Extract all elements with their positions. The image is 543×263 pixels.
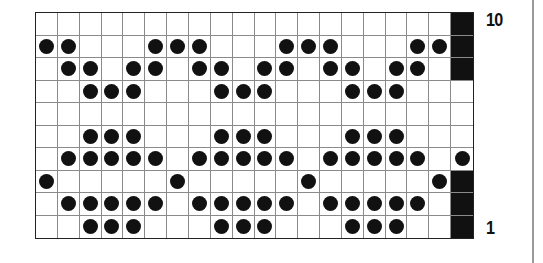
stitch-dot-icon: [389, 84, 404, 99]
stitch-dot-icon: [389, 151, 404, 166]
stitch-dot-icon: [345, 219, 360, 234]
stitch-dot-icon: [257, 129, 272, 144]
stitch-dot-icon: [279, 196, 294, 211]
stitch-dot-icon: [236, 84, 251, 99]
grid-cell: [102, 148, 124, 171]
grid-cell: [145, 103, 167, 126]
stitch-dot-icon: [389, 219, 404, 234]
grid-cell: [451, 13, 473, 36]
stitch-dot-icon: [367, 196, 382, 211]
grid-cell: [298, 58, 320, 81]
grid-cell: [255, 81, 277, 104]
grid-cell: [167, 103, 189, 126]
grid-cell: [298, 216, 320, 239]
stitch-dot-icon: [345, 61, 360, 76]
grid-cell: [167, 13, 189, 36]
grid-cell: [167, 81, 189, 104]
stitch-dot-icon: [345, 196, 360, 211]
grid-cell: [123, 126, 145, 149]
stitch-dot-icon: [455, 151, 470, 166]
grid-cell: [407, 58, 429, 81]
grid-cell: [298, 193, 320, 216]
grid-cell: [320, 148, 342, 171]
stitch-dot-icon: [345, 151, 360, 166]
grid-cell: [123, 36, 145, 59]
stitch-dot-icon: [104, 219, 119, 234]
grid-cell: [298, 13, 320, 36]
grid-cell: [451, 148, 473, 171]
grid-cell: [298, 103, 320, 126]
grid-cell: [255, 216, 277, 239]
stitch-dot-icon: [257, 219, 272, 234]
grid-cell: [429, 126, 451, 149]
grid-cell: [36, 58, 58, 81]
stitch-dot-icon: [126, 129, 141, 144]
stitch-dot-icon: [301, 174, 316, 189]
grid-cell: [58, 103, 80, 126]
grid-cell: [342, 36, 364, 59]
grid-cell: [123, 103, 145, 126]
stitch-dot-icon: [236, 196, 251, 211]
grid-cell: [80, 216, 102, 239]
grid-cell: [123, 148, 145, 171]
grid-cell: [80, 148, 102, 171]
stitch-dot-icon: [345, 129, 360, 144]
stitch-dot-icon: [214, 61, 229, 76]
grid-cell: [145, 58, 167, 81]
grid-cell: [364, 81, 386, 104]
grid-cell: [211, 148, 233, 171]
grid-cell: [407, 216, 429, 239]
grid-cell: [386, 103, 408, 126]
grid-cell: [342, 103, 364, 126]
stitch-dot-icon: [279, 61, 294, 76]
grid-cell: [298, 81, 320, 104]
stitch-dot-icon: [236, 129, 251, 144]
grid-cell: [233, 13, 255, 36]
grid-cell: [80, 13, 102, 36]
grid-cell: [145, 216, 167, 239]
stitch-dot-icon: [389, 129, 404, 144]
stitch-dot-icon: [126, 196, 141, 211]
stitch-dot-icon: [323, 61, 338, 76]
row-label-top: 10: [486, 9, 502, 31]
stitch-dot-icon: [214, 196, 229, 211]
stitch-dot-icon: [345, 84, 360, 99]
grid-cell: [36, 13, 58, 36]
grid-cell: [276, 216, 298, 239]
grid-cell: [189, 126, 211, 149]
grid-cell: [386, 126, 408, 149]
grid-cell: [211, 216, 233, 239]
grid-cell: [80, 81, 102, 104]
stitch-dot-icon: [126, 151, 141, 166]
grid-cell: [233, 36, 255, 59]
stitch-dot-icon: [279, 151, 294, 166]
grid-cell: [123, 193, 145, 216]
grid-cell: [429, 193, 451, 216]
grid-cell: [145, 193, 167, 216]
grid-cell: [189, 36, 211, 59]
stitch-dot-icon: [148, 61, 163, 76]
stitch-dot-icon: [192, 61, 207, 76]
grid-cell: [102, 171, 124, 194]
grid-cell: [145, 81, 167, 104]
grid-cell: [407, 13, 429, 36]
grid-cell: [145, 126, 167, 149]
grid-cell: [386, 216, 408, 239]
grid-cell: [233, 58, 255, 81]
stitch-dot-icon: [236, 151, 251, 166]
grid-cell: [145, 148, 167, 171]
grid-cell: [255, 58, 277, 81]
stitch-dot-icon: [301, 39, 316, 54]
grid-cell: [386, 13, 408, 36]
stitch-chart-grid: [35, 12, 474, 239]
grid-cell: [407, 103, 429, 126]
grid-cell: [80, 36, 102, 59]
stitch-dot-icon: [83, 219, 98, 234]
grid-cell: [211, 126, 233, 149]
grid-cell: [320, 103, 342, 126]
grid-cell: [233, 193, 255, 216]
grid-cell: [102, 36, 124, 59]
grid-cell: [320, 13, 342, 36]
grid-cell: [123, 171, 145, 194]
grid-cell: [233, 103, 255, 126]
